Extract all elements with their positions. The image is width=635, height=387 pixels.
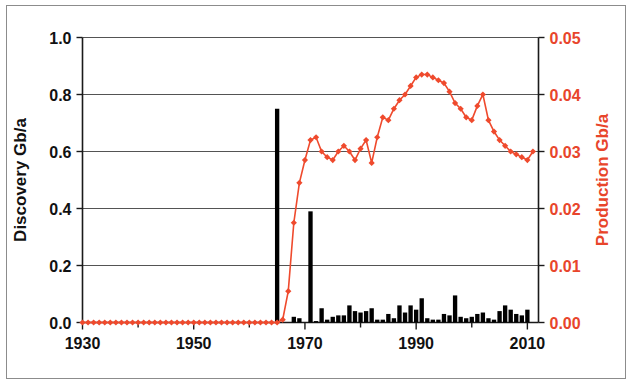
production-marker	[185, 319, 191, 325]
production-marker	[118, 319, 124, 325]
production-marker	[380, 114, 386, 120]
production-marker	[107, 319, 113, 325]
discovery-bar	[292, 317, 296, 323]
production-marker	[79, 319, 85, 325]
discovery-bar	[425, 318, 429, 322]
discovery-bar	[297, 318, 301, 322]
y-tick-label-left: 0.0	[49, 315, 71, 332]
production-marker	[163, 319, 169, 325]
discovery-bar	[436, 320, 440, 323]
production-marker	[135, 319, 141, 325]
discovery-bar	[353, 311, 357, 322]
production-marker	[252, 319, 258, 325]
discovery-bar	[520, 315, 524, 322]
production-marker	[296, 180, 302, 186]
production-marker	[424, 71, 430, 77]
production-marker	[129, 319, 135, 325]
discovery-bar	[486, 318, 490, 322]
discovery-bar	[308, 211, 312, 322]
production-marker	[263, 319, 269, 325]
discovery-bar	[464, 318, 468, 322]
discovery-bar	[386, 314, 390, 323]
production-marker	[91, 319, 97, 325]
production-marker	[218, 319, 224, 325]
production-marker	[435, 77, 441, 83]
production-marker	[85, 319, 91, 325]
y-tick-label-left: 0.6	[49, 144, 71, 161]
discovery-bar	[347, 305, 351, 322]
discovery-bar	[475, 314, 479, 323]
production-marker	[141, 319, 147, 325]
production-marker	[202, 319, 208, 325]
discovery-bar	[397, 305, 401, 322]
production-marker	[513, 151, 519, 157]
production-marker	[419, 71, 425, 77]
discovery-bar	[342, 315, 346, 322]
y-tick-label-right: 0.00	[550, 315, 581, 332]
production-marker	[168, 319, 174, 325]
y-tick-label-right: 0.04	[550, 87, 581, 104]
discovery-bar	[275, 109, 279, 323]
discovery-bar	[470, 317, 474, 323]
production-marker	[246, 319, 252, 325]
discovery-bar	[414, 310, 418, 323]
discovery-bar	[331, 317, 335, 323]
production-marker	[285, 288, 291, 294]
x-tick-label: 1930	[65, 335, 101, 352]
production-marker	[469, 117, 475, 123]
y-tick-label-right: 0.02	[550, 201, 581, 218]
discovery-bar	[420, 298, 424, 322]
discovery-bar	[336, 315, 340, 322]
production-marker	[124, 319, 130, 325]
production-marker	[213, 319, 219, 325]
x-tick-label: 2010	[510, 335, 546, 352]
discovery-bar	[458, 317, 462, 323]
production-marker	[224, 319, 230, 325]
y-tick-label-left: 1.0	[49, 30, 71, 47]
production-marker	[230, 319, 236, 325]
discovery-bar	[509, 310, 513, 323]
production-marker	[374, 134, 380, 140]
production-marker	[191, 319, 197, 325]
production-marker	[369, 160, 375, 166]
production-marker	[430, 74, 436, 80]
discovery-bar	[497, 311, 501, 322]
discovery-bar-series	[275, 109, 530, 323]
production-marker	[113, 319, 119, 325]
discovery-bar	[319, 308, 323, 322]
discovery-bar	[325, 320, 329, 323]
discovery-bar	[492, 320, 496, 323]
production-marker	[302, 157, 308, 163]
discovery-bar	[453, 295, 457, 322]
production-marker	[235, 319, 241, 325]
production-marker	[307, 137, 313, 143]
production-marker	[385, 117, 391, 123]
production-line	[83, 75, 533, 323]
discovery-bar	[447, 315, 451, 322]
discovery-bar	[314, 321, 318, 322]
y-axis-title-right: Production Gb/a	[593, 113, 612, 246]
production-markers	[79, 71, 536, 325]
y-tick-label-right: 0.03	[550, 144, 581, 161]
dual-axis-chart: 0.00.20.40.60.81.00.000.010.020.030.040.…	[0, 0, 635, 387]
production-marker	[157, 319, 163, 325]
discovery-bar	[503, 305, 507, 322]
production-marker	[146, 319, 152, 325]
discovery-bar	[481, 313, 485, 323]
discovery-bar	[442, 314, 446, 323]
production-marker	[480, 91, 486, 97]
x-tick-label: 1950	[176, 335, 212, 352]
discovery-bar	[431, 320, 435, 323]
y-tick-label-left: 0.8	[49, 87, 71, 104]
discovery-bar	[525, 310, 529, 323]
production-marker	[474, 103, 480, 109]
y-tick-label-left: 0.4	[49, 201, 71, 218]
x-tick-label: 1970	[287, 335, 323, 352]
discovery-bar	[370, 308, 374, 322]
x-tick-label: 1990	[398, 335, 434, 352]
production-marker	[257, 319, 263, 325]
production-marker	[152, 319, 158, 325]
discovery-bar	[381, 320, 385, 323]
production-marker	[180, 319, 186, 325]
y-tick-label-right: 0.05	[550, 30, 581, 47]
